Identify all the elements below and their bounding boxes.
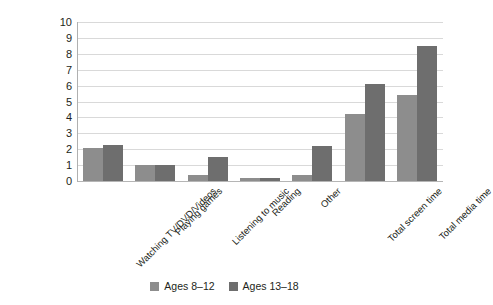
- bar: [292, 175, 312, 181]
- legend-label: Ages 8–12: [164, 281, 214, 292]
- legend-label: Ages 13–18: [243, 281, 299, 292]
- legend-swatch-icon: [150, 282, 159, 291]
- bar: [345, 114, 365, 181]
- y-axis-tick-labels: 012345678910: [48, 22, 72, 181]
- x-axis-category-label: Total media time: [437, 186, 493, 242]
- y-axis-tick-label: 0: [50, 176, 72, 187]
- x-axis-category-label: Playing games: [174, 186, 225, 237]
- y-axis-tick-label: 3: [50, 128, 72, 139]
- x-axis-category-label: Listening to music: [230, 186, 291, 247]
- y-axis-tick-label: 6: [50, 80, 72, 91]
- y-axis-tick-label: 4: [50, 112, 72, 123]
- bar-group: [129, 22, 181, 181]
- bar-group: [182, 22, 234, 181]
- bar: [240, 178, 260, 181]
- bar: [417, 46, 437, 181]
- bar: [208, 157, 228, 181]
- bar-groups: [77, 22, 443, 181]
- y-axis-tick-label: 7: [50, 64, 72, 75]
- y-axis-tick-label: 10: [50, 17, 72, 28]
- bar-group: [77, 22, 129, 181]
- x-axis-category-label: Other: [319, 186, 343, 210]
- bar: [83, 148, 103, 181]
- bar: [312, 146, 332, 181]
- bar-group: [286, 22, 338, 181]
- bar: [103, 145, 123, 181]
- y-axis-tick-label: 9: [50, 32, 72, 43]
- y-axis-tick-label: 2: [50, 144, 72, 155]
- bar: [155, 165, 175, 181]
- legend-swatch-icon: [229, 282, 238, 291]
- bar: [135, 165, 155, 181]
- y-axis-tick-label: 5: [50, 96, 72, 107]
- y-axis-tick-label: 8: [50, 48, 72, 59]
- bar: [397, 95, 417, 181]
- bar-group: [391, 22, 443, 181]
- y-axis-tick-label: 1: [50, 160, 72, 171]
- bar: [365, 84, 385, 181]
- bar: [188, 175, 208, 181]
- bar-group: [338, 22, 390, 181]
- x-axis-category-label: Total screen time: [386, 186, 444, 244]
- bar-group: [234, 22, 286, 181]
- chart-legend: Ages 8–12Ages 13–18: [0, 281, 449, 292]
- legend-item: Ages 13–18: [229, 281, 299, 292]
- bar: [260, 178, 280, 181]
- x-axis-category-labels: Watching TV/DVD/VideosPlaying gamesListe…: [77, 182, 443, 272]
- legend-item: Ages 8–12: [150, 281, 214, 292]
